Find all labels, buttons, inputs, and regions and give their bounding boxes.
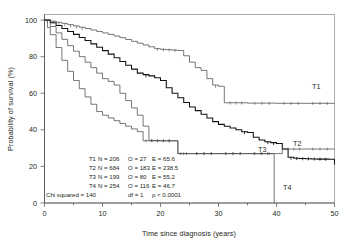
x-axis-title: Time since diagnosis (years) [142, 229, 236, 238]
y-tick-label: 0 [33, 199, 37, 208]
curve-label-t3: T3 [258, 145, 266, 154]
x-tick-label: 30 [215, 209, 223, 218]
stats-row-e: E = 46.7 [152, 182, 175, 189]
x-tick-label: 50 [331, 209, 339, 218]
x-axis-ticks [45, 203, 335, 207]
curve-label-t2: T2 [293, 139, 301, 148]
stats-row-n: N = 206 [98, 155, 120, 162]
stats-row-group: T3 [89, 173, 97, 180]
stats-row-n: N = 684 [98, 164, 120, 171]
y-tick-label: 60 [29, 89, 37, 98]
stats-df: df = 1 [128, 191, 144, 198]
y-tick-label: 80 [29, 52, 37, 61]
stats-p-value: p < 0.0001 [152, 191, 182, 198]
stats-row-n: N = 254 [98, 182, 120, 189]
stats-row-o: O = 27 [128, 155, 147, 162]
x-tick-label: 0 [43, 209, 47, 218]
curve-t1 [45, 20, 335, 103]
stats-row-group: T4 [89, 182, 97, 189]
y-tick-label: 100 [25, 16, 37, 25]
y-tick-label: 20 [29, 162, 37, 171]
x-axis-tick-labels: 0 10 20 30 40 50 [43, 209, 339, 218]
y-tick-label: 40 [29, 125, 37, 134]
x-tick-label: 40 [273, 209, 281, 218]
stats-row-o: O = 183 [128, 164, 150, 171]
stats-row-o: O = 116 [128, 182, 150, 189]
chart-svg: 100 80 60 40 20 0 0 10 20 30 40 [0, 0, 353, 246]
y-axis-tick-labels: 100 80 60 40 20 0 [25, 16, 37, 208]
stats-row-e: E = 238.5 [152, 164, 179, 171]
curve-t2 [45, 20, 335, 164]
curve-label-t1: T1 [312, 82, 320, 91]
curve-label-t4: T4 [283, 183, 291, 192]
stats-row-group: T2 [89, 164, 97, 171]
statistics-annotation: T1 N = 206 O = 27 E = 65.6 T2 N = 684 O … [46, 155, 182, 198]
x-tick-label: 20 [157, 209, 165, 218]
stats-row-e: E = 65.6 [152, 155, 175, 162]
stats-row-n: N = 199 [98, 173, 120, 180]
x-tick-label: 10 [99, 209, 107, 218]
stats-row-o: O = 80 [128, 173, 147, 180]
survival-chart-figure: 100 80 60 40 20 0 0 10 20 30 40 [0, 0, 353, 246]
stats-chi-squared: Chi squared = 140 [46, 191, 97, 198]
stats-row-e: E = 55.2 [152, 173, 175, 180]
stats-row-group: T1 [89, 155, 97, 162]
y-axis-title: Probability of survival (%) [6, 67, 15, 151]
y-axis-ticks [41, 20, 45, 203]
